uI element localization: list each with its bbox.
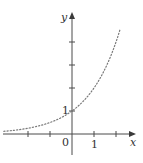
y-tick-label-1: 1 [62, 104, 69, 117]
origin-label: 0 [62, 136, 69, 149]
x-tick-label-1: 1 [91, 138, 98, 151]
y-axis-label: y [60, 11, 68, 24]
function-graph: y x 0 1 1 [0, 0, 143, 163]
y-axis-arrow-icon [69, 12, 75, 19]
x-axis-label: x [130, 136, 137, 149]
